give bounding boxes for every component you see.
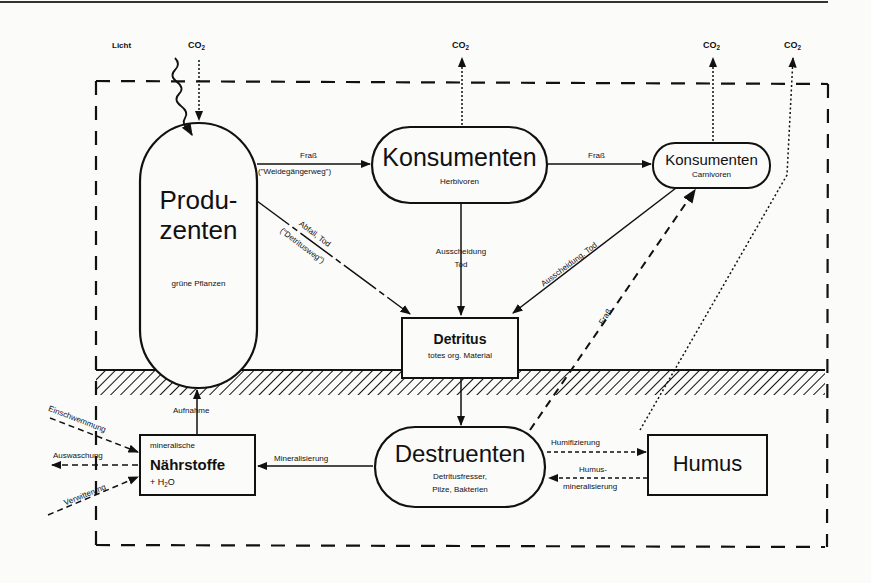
co2-text: CO [784,40,798,50]
produzenten-node[interactable] [140,123,257,388]
edge-herb-to-detritus-label-line2: Tod [420,261,502,269]
co2-release-herbivoren-label: CO2 [452,41,469,51]
destruenten-subtitle-line1: Detritusfresser, [375,473,545,481]
ecosystem-diagram [0,0,871,583]
produzenten-title-line2: zenten [140,215,257,245]
naehrstoffe-title: Nährstoffe [150,457,225,472]
naehrstoffe-line1: mineralische [150,442,195,450]
light-label: Licht [112,42,131,50]
edge-humus-to-destr-label-line1: Humus- [558,466,628,474]
konsumenten-herbivoren-title: Konsumenten [372,145,547,170]
edge-herb-to-detritus-label-line1: Ausscheidung [420,248,502,256]
edge-humus-to-destr-label-line2: mineralisierung [563,483,617,491]
edge-auswaschung-label: Auswaschung [53,452,103,460]
water-suffix: O [168,477,175,487]
edge-herb-to-carn-label: Fraß [588,152,605,160]
co2-subscript: 2 [717,44,721,51]
edge-prod-to-herb-label: Fraß [300,152,317,160]
edge-prod-to-detritus [257,201,410,314]
naehrstoffe-water: + H2O [150,478,175,488]
detritus-subtitle: totes org. Material [402,352,518,360]
edge-naehr-to-prod-label: Aufnahme [173,407,209,415]
co2-subscript: 2 [466,44,470,51]
co2-uptake-label: CO2 [188,41,205,51]
edge-destr-to-naehr-label: Mineralisierung [274,455,328,463]
produzenten-subtitle: grüne Pflanzen [140,280,257,288]
co2-text: CO [188,40,202,50]
konsumenten-carnivoren-subtitle: Carnivoren [653,171,770,179]
destruenten-subtitle-line2: Pilze, Bakterien [375,486,545,494]
destruenten-node[interactable] [375,427,545,507]
co2-text: CO [452,40,466,50]
co2-text: CO [703,40,717,50]
edge-destr-to-humus-label: Humifizierung [551,439,600,447]
water-prefix: + H [150,477,164,487]
destruenten-title: Destruenten [375,442,545,466]
edge-prod-to-herb-sublabel: ("Weidegängerweg") [258,168,331,176]
co2-subscript: 2 [798,44,802,51]
detritus-title: Detritus [402,332,518,346]
detritus-node[interactable] [402,318,518,378]
co2-release-carnivoren-label: CO2 [703,41,720,51]
co2-release-destruenten-label: CO2 [784,41,801,51]
konsumenten-herbivoren-subtitle: Herbivoren [372,178,547,186]
konsumenten-carnivoren-title: Konsumenten [653,152,770,167]
produzenten-title-line1: Produ- [140,185,257,215]
produzenten-title: Produ- zenten [140,185,257,245]
co2-subscript: 2 [202,44,206,51]
humus-title: Humus [648,453,767,475]
